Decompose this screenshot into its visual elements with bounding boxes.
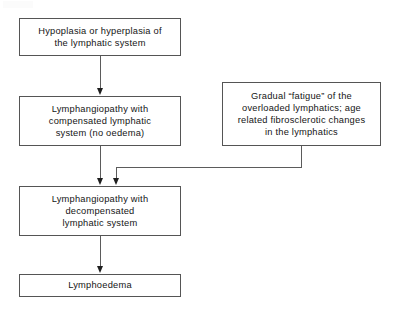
connector-hypoplasia-to-compensated [100,56,101,89]
arrowhead-icon-compensated [97,88,103,95]
scan-artifact [3,1,33,8]
flowchart-node-fatigue: Gradual “fatigue” of the overloaded lymp… [222,82,381,146]
flowchart-node-lymphoedema: Lymphoedema [19,274,181,297]
flowchart-node-decompensated: Lymphangiopathy with decompensated lymph… [19,186,181,236]
arrowhead-icon-decompensated-left [97,178,103,185]
arrowhead-icon-lymphoedema [97,266,103,273]
flowchart-canvas: Hypoplasia or hyperplasia of the lymphat… [0,0,396,314]
flowchart-node-hypoplasia: Hypoplasia or hyperplasia of the lymphat… [19,18,181,56]
connector-compensated-to-decompensated [100,146,101,179]
arrowhead-icon-decompensated-right [113,178,119,185]
connector-fatigue-vertical-drop [301,146,302,168]
connector-decompensated-to-lymphoedema [100,236,101,267]
flowchart-node-compensated: Lymphangiopathy with compensated lymphat… [19,96,181,146]
connector-fatigue-horizontal-run [116,167,302,168]
